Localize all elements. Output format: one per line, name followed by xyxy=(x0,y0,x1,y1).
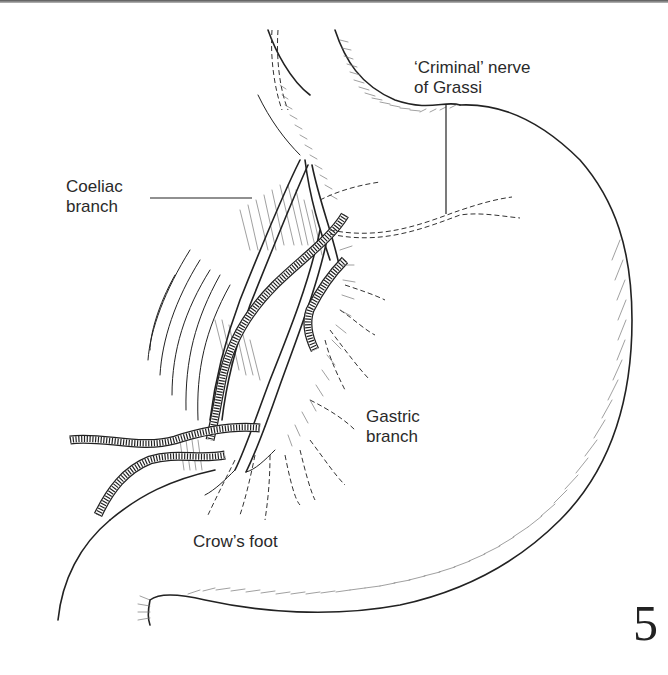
criminal-nerve-dashed xyxy=(320,182,520,238)
oesophagus xyxy=(258,30,337,199)
lesser-curvature-rays xyxy=(288,246,355,446)
label-gastric-line1: Gastric xyxy=(366,406,420,427)
label-coeliac-line2: branch xyxy=(66,196,118,217)
stomach-outline xyxy=(58,30,632,625)
stomach-illustration xyxy=(0,0,668,675)
label-criminal-nerve-line2: of Grassi xyxy=(414,77,482,98)
label-gastric-line2: branch xyxy=(366,426,418,447)
gastric-vessel-right xyxy=(308,260,345,350)
crows-foot-branches xyxy=(208,440,345,520)
figure-number: 5 xyxy=(633,598,658,648)
label-criminal-nerve-line1: ‘Criminal’ nerve xyxy=(414,57,531,78)
label-crows-foot: Crow’s foot xyxy=(193,531,278,552)
lower-vessel xyxy=(98,455,225,515)
label-coeliac-line1: Coeliac xyxy=(66,176,123,197)
splenic-vessel xyxy=(70,427,260,443)
